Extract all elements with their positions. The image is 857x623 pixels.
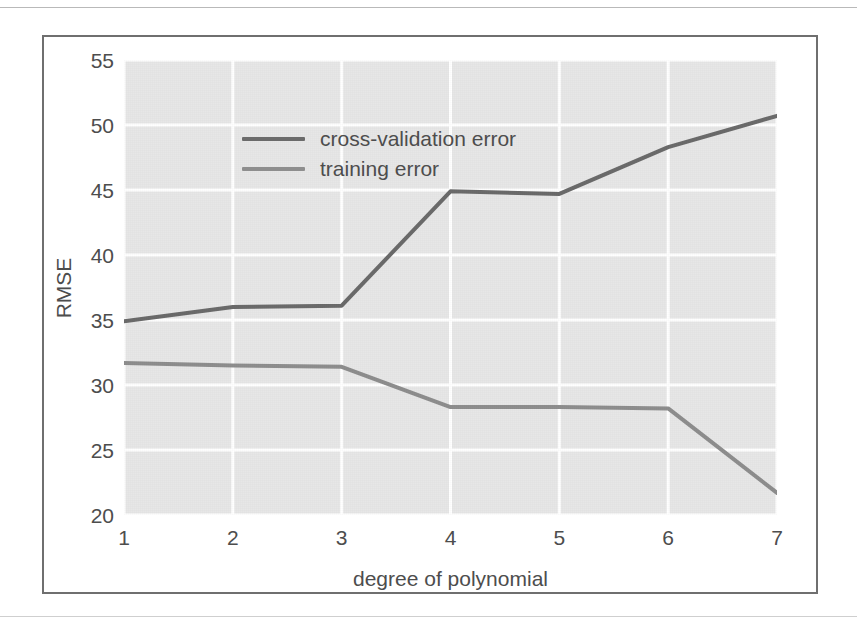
- x-tick-label: 2: [227, 527, 239, 548]
- page-edge-line-bottom: [0, 616, 857, 617]
- y-tick-label: 35: [72, 310, 114, 331]
- plot-area: cross-validation error training error: [124, 60, 777, 515]
- legend-line-swatch-training-error: [242, 167, 305, 171]
- y-tick-label: 55: [72, 50, 114, 71]
- legend-label-cross-validation-error: cross-validation error: [320, 128, 516, 149]
- y-tick-label: 25: [72, 440, 114, 461]
- y-tick-label: 45: [72, 180, 114, 201]
- x-tick-label: 7: [771, 527, 783, 548]
- x-axis-title: degree of polynomial: [124, 567, 777, 591]
- figure-frame: 2025303540455055 1234567 RMSE degree of …: [42, 35, 818, 594]
- y-tick-label: 50: [72, 115, 114, 136]
- legend-line-swatch-cross-validation-error: [242, 137, 305, 141]
- legend-item-cross-validation-error: cross-validation error: [242, 128, 516, 149]
- x-tick-label: 5: [553, 527, 565, 548]
- scanned-page: 2025303540455055 1234567 RMSE degree of …: [0, 0, 857, 623]
- x-tick-label: 1: [118, 527, 130, 548]
- x-tick-label: 4: [445, 527, 457, 548]
- y-tick-label: 30: [72, 375, 114, 396]
- page-edge-line-top: [0, 7, 857, 8]
- x-tick-label: 3: [336, 527, 348, 548]
- y-tick-label: 40: [72, 245, 114, 266]
- legend: cross-validation error training error: [242, 128, 516, 179]
- legend-label-training-error: training error: [320, 158, 439, 179]
- legend-item-training-error: training error: [242, 158, 516, 179]
- y-axis-title: RMSE: [52, 228, 76, 348]
- x-tick-label: 6: [662, 527, 674, 548]
- y-tick-label: 20: [72, 505, 114, 526]
